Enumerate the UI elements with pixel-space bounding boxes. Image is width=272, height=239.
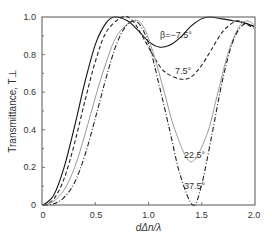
y-tick-1-0: 1.0 xyxy=(23,12,36,22)
curve-7-5 xyxy=(43,16,254,205)
x-tick-1-5: 1.5 xyxy=(195,210,208,220)
plot-frame xyxy=(42,17,255,205)
x-tick-2-0: 2.0 xyxy=(248,210,261,220)
curve-37-5 xyxy=(43,21,254,205)
y-axis-label: Transmittance, T⊥ xyxy=(7,69,18,152)
x-tick-1-0: 1.0 xyxy=(142,210,155,220)
curve-label-beta-neg-7-5: β=−7.5° xyxy=(160,30,192,40)
y-tick-0-6: 0.6 xyxy=(23,87,36,97)
x-axis-label: dΔn/λ xyxy=(136,222,162,233)
plot-curves xyxy=(43,16,254,205)
y-tick-0-4: 0.4 xyxy=(23,125,36,135)
curve-label-22-5: 22.5° xyxy=(184,150,206,160)
transmittance-chart: 0 0.2 0.4 0.6 0.8 1.0 0 0.5 1.0 1.5 2.0 … xyxy=(0,0,272,239)
x-tick-0: 0 xyxy=(40,210,45,220)
y-tick-0-8: 0.8 xyxy=(23,50,36,60)
curve-beta-neg-7-5 xyxy=(43,17,254,205)
x-tick-0-5: 0.5 xyxy=(90,210,103,220)
y-tick-0: 0 xyxy=(31,200,36,210)
curve-label-7-5: 7.5° xyxy=(175,66,192,76)
curve-label-37-5: 37.5° xyxy=(184,181,206,191)
y-tick-0-2: 0.2 xyxy=(23,162,36,172)
